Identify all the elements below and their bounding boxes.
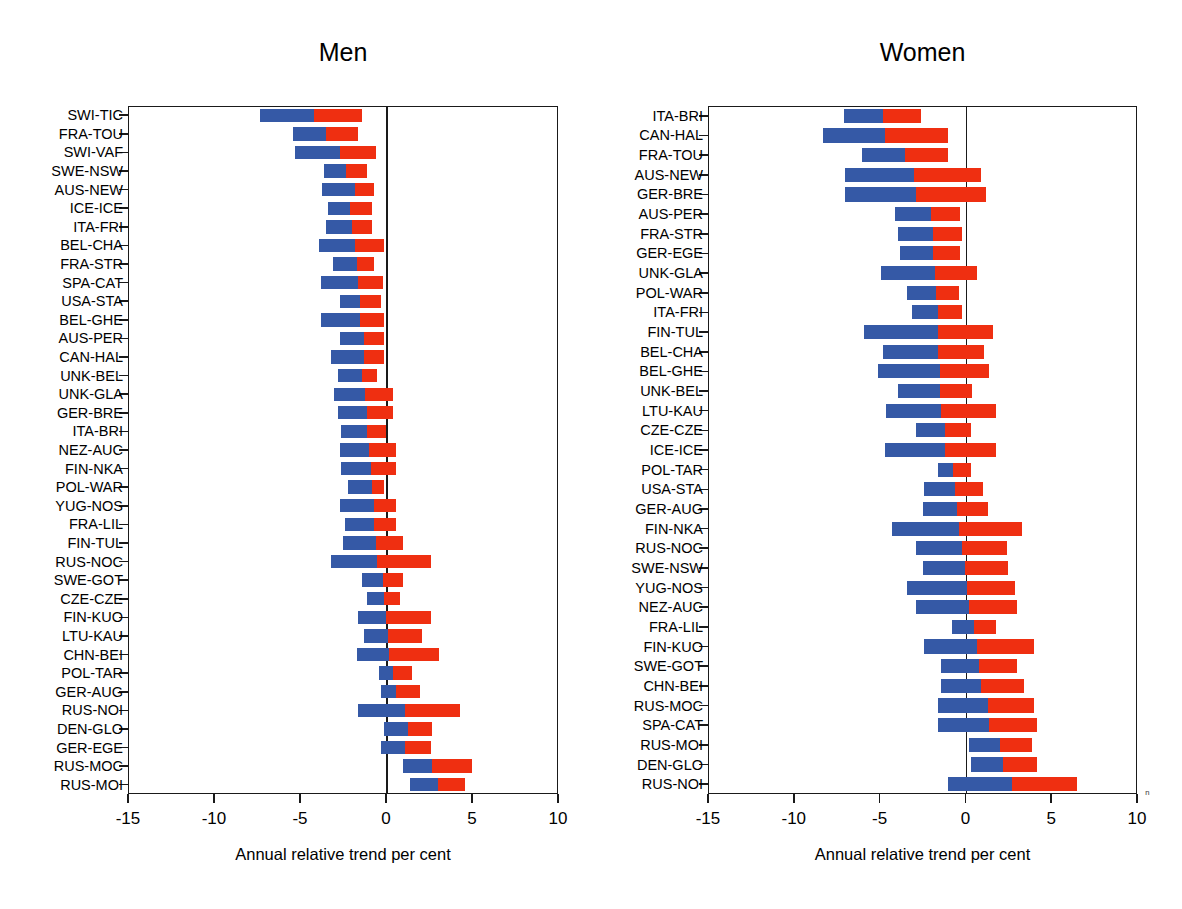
y-axis-label-den-glo: DEN-GLO [0, 722, 123, 737]
bar-blue-swi-tic [260, 109, 313, 122]
stray-mark: ⁿ [1145, 786, 1150, 801]
y-axis-label-fin-nka: FIN-NKA [503, 522, 703, 537]
bar-red-ger-bre [367, 406, 393, 419]
bar-red-fra-str [933, 227, 962, 241]
bar-blue-ita-bri [341, 425, 367, 438]
bar-blue-fin-kuo [924, 639, 977, 653]
bar-blue-swe-got [941, 659, 979, 673]
bar-blue-rus-moc [938, 698, 988, 712]
y-axis-label-cze-cze: CZE-CZE [0, 592, 123, 607]
bar-blue-rus-noi [358, 704, 404, 717]
bar-red-fin-tul [938, 325, 993, 339]
bar-red-rus-noi [405, 704, 460, 717]
y-axis-label-aus-new: AUS-NEW [503, 168, 703, 183]
bar-red-unk-gla [365, 388, 393, 401]
y-axis-label-ger-aug: GER-AUG [503, 502, 703, 517]
bar-red-rus-moc [432, 759, 472, 772]
bar-blue-can-hal [823, 128, 885, 142]
bar-red-pol-war [936, 286, 958, 300]
bar-blue-swe-nsw [324, 164, 346, 177]
bar-red-ger-bre [916, 187, 986, 201]
y-axis-label-fra-lil: FRA-LIL [503, 620, 703, 635]
bar-blue-yug-nos [340, 499, 374, 512]
bar-red-den-glo [1003, 757, 1037, 771]
y-axis-label-bel-ghe: BEL-GHE [503, 364, 703, 379]
bar-red-bel-cha [938, 345, 984, 359]
y-axis-label-unk-gla: UNK-GLA [0, 387, 123, 402]
bar-red-bel-cha [355, 239, 384, 252]
bar-red-ita-bri [883, 109, 921, 123]
y-axis-label-nez-auc: NEZ-AUC [0, 443, 123, 458]
bar-blue-fra-tou [862, 148, 905, 162]
bar-blue-ita-fri [326, 220, 352, 233]
y-axis-label-ice-ice: ICE-ICE [0, 201, 123, 216]
x-axis-tick-label: 5 [1011, 809, 1091, 829]
bar-blue-fra-str [333, 257, 357, 270]
bar-red-nez-auc [369, 443, 397, 456]
bar-blue-unk-bel [338, 369, 362, 382]
bar-red-ice-ice [945, 443, 996, 457]
x-axis-tick [1136, 794, 1138, 803]
bar-blue-spa-cat [321, 276, 359, 289]
y-axis-label-nez-auc: NEZ-AUC [503, 600, 703, 615]
bar-red-fin-nka [959, 522, 1022, 536]
bar-red-fra-tou [326, 127, 359, 140]
bar-red-ice-ice [350, 202, 372, 215]
bar-red-fra-tou [905, 148, 948, 162]
y-axis-label-den-glo: DEN-GLO [503, 758, 703, 773]
x-axis-tick-label: 10 [1097, 809, 1177, 829]
bar-red-yug-nos [967, 581, 1015, 595]
bar-blue-ice-ice [885, 443, 945, 457]
bar-blue-rus-noc [331, 555, 377, 568]
bar-blue-swi-vaf [295, 146, 340, 159]
y-axis-label-spa-cat: SPA-CAT [0, 276, 123, 291]
x-axis-tick-label: -15 [88, 809, 168, 829]
y-axis-label-unk-bel: UNK-BEL [0, 369, 123, 384]
x-axis-tick-label: 0 [925, 809, 1005, 829]
bar-blue-pol-tar [938, 463, 953, 477]
y-axis-label-swe-nsw: SWE-NSW [0, 164, 123, 179]
bar-blue-rus-noi [948, 777, 1011, 791]
y-axis-label-bel-ghe: BEL-GHE [0, 313, 123, 328]
bar-blue-pol-tar [379, 666, 393, 679]
x-axis-tick [707, 794, 709, 803]
y-axis-label-pol-tar: POL-TAR [0, 666, 123, 681]
y-axis-label-usa-sta: USA-STA [0, 294, 123, 309]
y-axis-label-fin-tul: FIN-TUL [0, 536, 123, 551]
bar-blue-ita-bri [844, 109, 883, 123]
bar-red-rus-noc [962, 541, 1007, 555]
bar-blue-rus-moc [403, 759, 432, 772]
bar-red-ita-fri [938, 305, 962, 319]
y-axis-label-rus-moc: RUS-MOC [0, 759, 123, 774]
x-axis-tick-label: 0 [346, 809, 426, 829]
y-axis-label-fin-kuo: FIN-KUO [503, 640, 703, 655]
y-axis-label-fin-tul: FIN-TUL [503, 325, 703, 340]
bar-blue-fin-kuo [358, 611, 386, 624]
x-axis-tick [471, 794, 473, 803]
bar-blue-unk-gla [881, 266, 934, 280]
bar-blue-bel-ghe [878, 364, 940, 378]
bar-red-nez-auc [969, 600, 1017, 614]
bar-red-cze-cze [945, 423, 971, 437]
bar-red-chn-bei [981, 679, 1024, 693]
bar-blue-rus-moi [410, 778, 438, 791]
y-axis-label-swe-got: SWE-GOT [503, 659, 703, 674]
x-axis-tick-label: 5 [432, 809, 512, 829]
bar-blue-ice-ice [328, 202, 350, 215]
bar-blue-chn-bei [941, 679, 980, 693]
y-axis-label-ice-ice: ICE-ICE [503, 443, 703, 458]
x-axis-tick [793, 794, 795, 803]
y-axis-label-fra-lil: FRA-LIL [0, 517, 123, 532]
y-axis-label-pol-tar: POL-TAR [503, 463, 703, 478]
bar-blue-ltu-kau [364, 629, 388, 642]
bar-red-fin-tul [376, 536, 404, 549]
bar-blue-bel-cha [319, 239, 355, 252]
bar-blue-usa-sta [924, 482, 955, 496]
x-axis-tick-label: -15 [668, 809, 748, 829]
bar-red-rus-moc [988, 698, 1034, 712]
bar-blue-fra-lil [952, 620, 974, 634]
bar-blue-unk-bel [898, 384, 939, 398]
y-axis-label-unk-bel: UNK-BEL [503, 384, 703, 399]
bar-red-rus-noi [1012, 777, 1077, 791]
y-axis-label-swi-vaf: SWI-VAF [0, 145, 123, 160]
